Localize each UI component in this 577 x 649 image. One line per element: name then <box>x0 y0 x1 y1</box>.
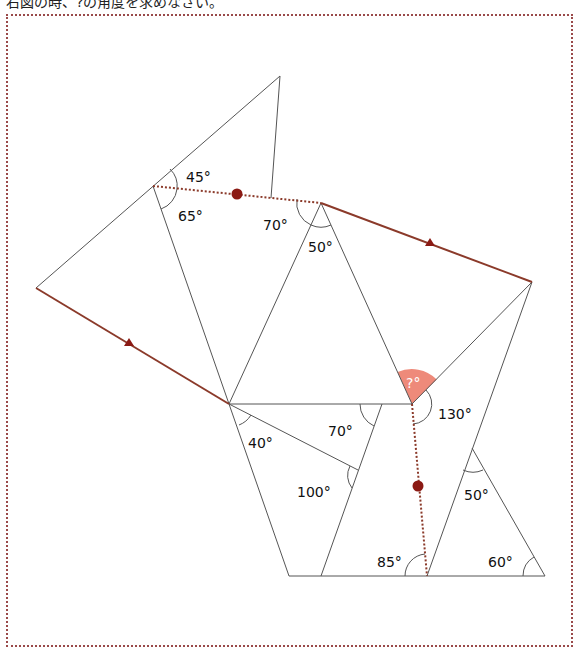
angle-label-130: 130° <box>438 406 472 422</box>
geometry-figure: 45° 65° 70° 50° ?° 130° 40° 70° 100° 85°… <box>0 0 577 649</box>
midpoint-dot-bottom <box>413 481 424 492</box>
highlighted-path <box>36 186 532 576</box>
angle-label-70-top: 70° <box>263 217 288 233</box>
angle-label-60: 60° <box>488 554 513 570</box>
angle-label-50-top: 50° <box>308 239 333 255</box>
angle-label-unknown: ?° <box>406 375 420 391</box>
angle-label-45: 45° <box>186 169 211 185</box>
angle-label-85: 85° <box>377 554 402 570</box>
angle-label-65: 65° <box>178 208 203 224</box>
angle-label-50-bottom: 50° <box>464 487 489 503</box>
midpoint-dot-top <box>232 189 243 200</box>
angle-label-40: 40° <box>248 435 273 451</box>
angle-label-100: 100° <box>297 484 331 500</box>
angle-label-70-mid: 70° <box>328 423 353 439</box>
